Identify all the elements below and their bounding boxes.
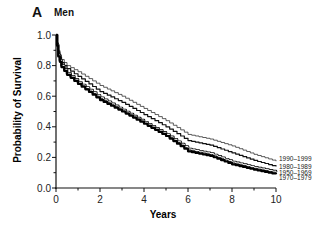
series-line-1980–1989 [56, 35, 276, 167]
survival-chart: 0.00.20.40.60.81.00246810 1990–19991980–… [0, 0, 323, 235]
series-labels: 1990–19991980–19891950–19691970–1979 [279, 155, 312, 181]
series-label: 1970–1979 [279, 174, 312, 181]
y-tick-label: 1.0 [37, 30, 51, 41]
series-lines [56, 35, 276, 174]
x-tick-label: 2 [97, 194, 103, 205]
y-tick-label: 0.8 [37, 60, 51, 71]
x-tick-label: 6 [185, 194, 191, 205]
y-tick-label: 0.0 [37, 183, 51, 194]
x-tick-label: 4 [141, 194, 147, 205]
x-tick-label: 10 [270, 194, 282, 205]
x-axis-label: Years [150, 209, 177, 220]
series-line-1990–1999 [56, 35, 276, 161]
series-line-1970–1979 [56, 35, 276, 174]
y-axis-label: Probability of Survival [12, 57, 23, 163]
y-tick-label: 0.6 [37, 91, 51, 102]
series-label: 1990–1999 [279, 155, 312, 162]
series-line-1950–1969 [56, 35, 276, 172]
x-tick-label: 8 [229, 194, 235, 205]
y-tick-label: 0.2 [37, 152, 51, 163]
axes: 0.00.20.40.60.81.00246810 [37, 30, 282, 206]
y-tick-label: 0.4 [37, 121, 51, 132]
x-tick-label: 0 [53, 194, 59, 205]
series-line-1950–1969 [56, 35, 276, 172]
